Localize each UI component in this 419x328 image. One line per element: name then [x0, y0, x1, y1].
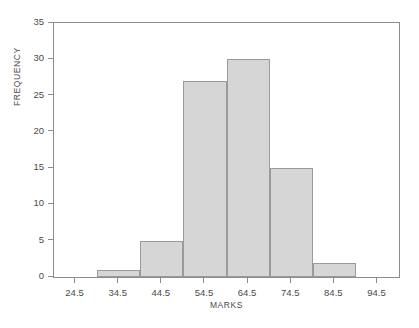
histogram-bar: [140, 241, 183, 277]
figure-caption: [0, 318, 419, 328]
x-tick-label: 64.5: [238, 286, 257, 299]
x-tick-label: 34.5: [108, 286, 127, 299]
x-tick-label: 84.5: [324, 286, 343, 299]
plot-area: [53, 22, 400, 278]
histogram-bar: [183, 81, 226, 277]
y-tick-label: 20: [33, 124, 44, 138]
x-tick-mark: [160, 278, 161, 283]
y-tick-label: 5: [39, 233, 44, 247]
x-tick-label: 24.5: [65, 286, 84, 299]
histogram-bar: [227, 59, 270, 277]
x-tick-label: 94.5: [367, 286, 386, 299]
histogram-bar: [313, 263, 356, 278]
y-tick-label: 10: [33, 196, 44, 210]
x-tick-mark: [74, 278, 75, 283]
x-tick-mark: [290, 278, 291, 283]
y-tick-label: 15: [33, 160, 44, 174]
y-axis: 05101520253035: [0, 22, 53, 278]
x-tick-mark: [333, 278, 334, 283]
x-tick-label: 44.5: [152, 286, 171, 299]
y-tick-label: 25: [33, 88, 44, 102]
x-tick-mark: [117, 278, 118, 283]
x-tick-mark: [376, 278, 377, 283]
y-tick-label: 35: [33, 15, 44, 29]
y-tick-label: 30: [33, 51, 44, 65]
histogram-figure: FREQUENCY 05101520253035 24.534.544.554.…: [0, 0, 419, 328]
histogram-bar: [97, 270, 140, 277]
y-tick-label: 0: [39, 269, 44, 283]
histogram-bar: [270, 168, 313, 277]
x-tick-label: 74.5: [281, 286, 300, 299]
x-tick-label: 54.5: [195, 286, 214, 299]
bars-layer: [54, 23, 399, 277]
x-tick-mark: [203, 278, 204, 283]
x-axis-title: MARKS: [53, 300, 400, 310]
x-tick-mark: [247, 278, 248, 283]
